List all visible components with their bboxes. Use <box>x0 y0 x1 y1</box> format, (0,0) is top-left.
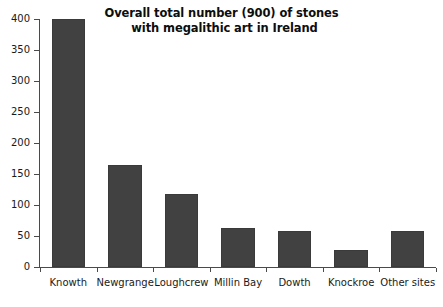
y-axis-label: 250 <box>0 107 30 117</box>
y-axis-tick <box>34 50 39 51</box>
bars-layer <box>40 19 436 267</box>
x-axis-tick <box>266 268 267 272</box>
bar-other-sites <box>391 231 424 267</box>
x-axis-label: Dowth <box>266 277 323 289</box>
y-axis-label: 200 <box>0 138 30 148</box>
x-axis-tick <box>210 268 211 272</box>
y-axis-label: 400 <box>0 14 30 24</box>
y-axis-tick <box>34 267 39 268</box>
bar-knockroe <box>334 250 367 267</box>
y-axis-label: 100 <box>0 200 30 210</box>
x-axis-label: Other sites <box>379 277 436 289</box>
y-axis-label: 150 <box>0 169 30 179</box>
y-axis-label: 0 <box>0 262 30 272</box>
y-axis-label: 300 <box>0 76 30 86</box>
y-axis-label: 50 <box>0 231 30 241</box>
x-axis-tick <box>40 268 41 272</box>
bar-loughcrew <box>165 194 198 267</box>
x-axis-label: Newgrange <box>97 277 154 289</box>
x-axis-label: Knowth <box>40 277 97 289</box>
x-axis-tick <box>97 268 98 272</box>
y-axis-tick <box>34 174 39 175</box>
x-axis-label: Loughcrew <box>153 277 210 289</box>
bar-millin-bay <box>221 228 254 267</box>
y-axis-label: 350 <box>0 45 30 55</box>
x-axis-label: Millin Bay <box>210 277 267 289</box>
y-axis-tick <box>34 205 39 206</box>
y-axis-tick <box>34 19 39 20</box>
bar-knowth <box>52 19 85 267</box>
bar-chart: Overall total number (900) of stones wit… <box>0 0 443 307</box>
x-axis-tick <box>436 268 437 272</box>
x-axis-line <box>39 267 436 268</box>
x-axis-tick <box>153 268 154 272</box>
bar-dowth <box>278 231 311 267</box>
bar-newgrange <box>108 165 141 267</box>
x-axis-label: Knockroe <box>323 277 380 289</box>
x-axis-tick <box>379 268 380 272</box>
y-axis-tick <box>34 236 39 237</box>
y-axis-tick <box>34 81 39 82</box>
y-axis-tick <box>34 143 39 144</box>
x-axis-tick <box>323 268 324 272</box>
y-axis-tick <box>34 112 39 113</box>
